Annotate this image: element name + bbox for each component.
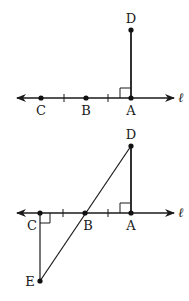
label-line-l: ℓ bbox=[178, 205, 184, 220]
label-b: B bbox=[83, 218, 93, 233]
label-b: B bbox=[81, 103, 91, 118]
point-c bbox=[38, 95, 43, 100]
label-c: C bbox=[36, 103, 46, 118]
figure-2: C B A D E ℓ bbox=[17, 127, 184, 289]
label-line-l: ℓ bbox=[178, 90, 184, 105]
label-e: E bbox=[25, 274, 35, 289]
label-d: D bbox=[126, 11, 136, 26]
point-a bbox=[128, 210, 133, 215]
figure-1: C B A D ℓ bbox=[17, 11, 184, 118]
point-b bbox=[83, 95, 88, 100]
point-b bbox=[82, 210, 87, 215]
label-a: A bbox=[125, 218, 136, 233]
geometry-figure: C B A D ℓ bbox=[0, 0, 189, 301]
point-a bbox=[128, 95, 133, 100]
point-d bbox=[128, 143, 133, 148]
label-d: D bbox=[126, 127, 136, 142]
point-e bbox=[37, 278, 42, 283]
label-c: C bbox=[27, 218, 37, 233]
label-a: A bbox=[125, 103, 136, 118]
diagram-svg: C B A D ℓ bbox=[0, 0, 189, 301]
point-c bbox=[37, 210, 42, 215]
point-d bbox=[128, 27, 133, 32]
